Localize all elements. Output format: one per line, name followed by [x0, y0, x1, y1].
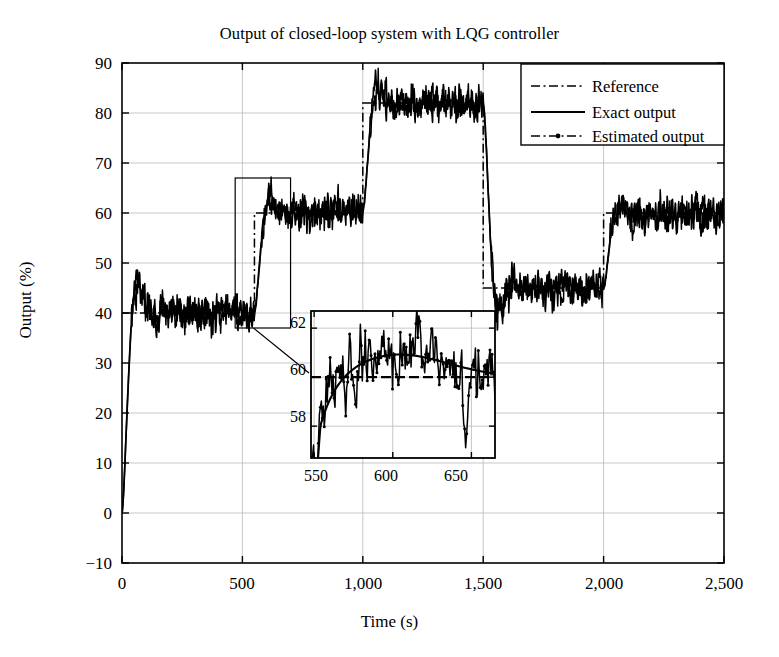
x-tick-label: 0: [77, 575, 167, 592]
y-tick-label: 50: [52, 255, 112, 272]
y-tick-label: 10: [52, 455, 112, 472]
x-tick-label: 500: [197, 575, 287, 592]
y-tick-label: 60: [52, 205, 112, 222]
y-tick-label: 90: [52, 55, 112, 72]
inset-y-tick-label: 58: [260, 409, 306, 425]
legend-swatch-estimated-marker: [556, 134, 561, 139]
y-tick-label: 80: [52, 105, 112, 122]
legend-label-reference: Reference: [592, 77, 659, 96]
y-tick-label: 70: [52, 155, 112, 172]
y-tick-label: 0: [52, 505, 112, 522]
inset-y-tick-label: 60: [260, 362, 306, 378]
y-tick-label: 20: [52, 405, 112, 422]
inset-x-tick-label: 600: [356, 468, 416, 484]
x-tick-label: 1,000: [318, 575, 408, 592]
legend-label-estimated-output: Estimated output: [592, 127, 705, 146]
y-tick-label: 40: [52, 305, 112, 322]
x-tick-label: 1,500: [438, 575, 528, 592]
inset-y-tick-label: 62: [260, 315, 306, 331]
y-axis-label: Output (%): [16, 230, 36, 370]
legend-label-exact-output: Exact output: [592, 103, 676, 122]
chart-figure: Output of closed-loop system with LQG co…: [0, 0, 779, 657]
x-axis-label: Time (s): [0, 612, 779, 632]
y-tick-label: 30: [52, 355, 112, 372]
chart-title: Output of closed-loop system with LQG co…: [0, 24, 779, 44]
inset-x-tick-label: 650: [426, 468, 486, 484]
x-tick-label: 2,500: [679, 575, 769, 592]
y-tick-label: −10: [42, 555, 112, 572]
chart-canvas: Reference Exact output Estimated output: [0, 0, 779, 657]
legend: Reference Exact output Estimated output: [521, 64, 724, 146]
x-tick-label: 2,000: [559, 575, 649, 592]
inset-x-tick-label: 550: [286, 468, 346, 484]
